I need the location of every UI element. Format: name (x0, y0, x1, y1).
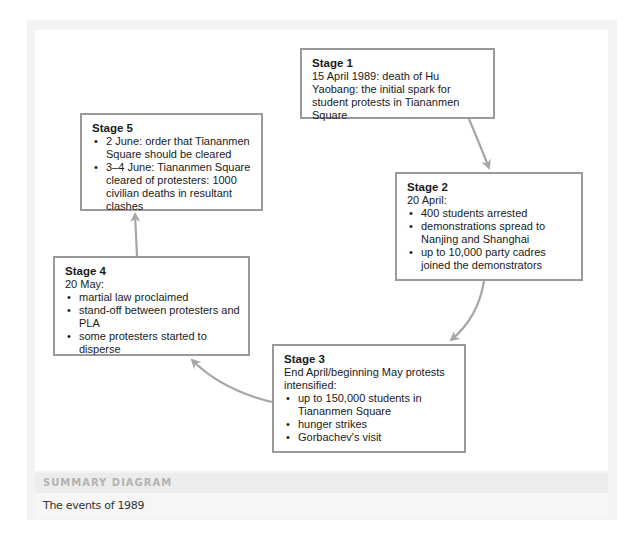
summary-diagram-header: SUMMARY DIAGRAM (35, 473, 608, 493)
stage-4-title: Stage 4 (65, 264, 240, 278)
stage-1-title: Stage 1 (312, 56, 485, 70)
stage-2-box: Stage 2 20 April: 400 students arrested … (395, 172, 583, 281)
bullet-item: martial law proclaimed (65, 291, 240, 304)
stage-5-title: Stage 5 (92, 121, 253, 135)
stage-5-box: Stage 5 2 June: order that Tiananmen Squ… (80, 113, 263, 211)
bullet-item: 3–4 June: Tiananmen Square cleared of pr… (92, 161, 253, 213)
stage-3-box: Stage 3 End April/beginning May protests… (272, 344, 466, 453)
bullet-item: up to 10,000 party cadres joined the dem… (407, 246, 573, 272)
bullet-item: up to 150,000 students in Tiananmen Squa… (284, 392, 456, 418)
stage-1-box: Stage 1 15 April 1989: death of Hu Yaoba… (300, 48, 495, 119)
bullet-item: some protesters started to disperse (65, 330, 240, 356)
stage-4-bullets: martial law proclaimed stand-off between… (65, 291, 240, 356)
stage-2-intro: 20 April: (407, 194, 573, 207)
bullet-item: 400 students arrested (407, 207, 573, 220)
stage-2-bullets: 400 students arrested demonstrations spr… (407, 207, 573, 272)
summary-diagram-caption: The events of 1989 (35, 493, 608, 518)
stage-3-title: Stage 3 (284, 352, 456, 366)
stage-4-box: Stage 4 20 May: martial law proclaimed s… (53, 256, 250, 356)
stage-1-text: 15 April 1989: death of Hu Yaobang: the … (312, 70, 485, 122)
stage-3-intro: End April/beginning May protests intensi… (284, 366, 456, 392)
bullet-item: Gorbachev's visit (284, 431, 456, 444)
stage-4-intro: 20 May: (65, 278, 240, 291)
bullet-item: hunger strikes (284, 418, 456, 431)
stage-3-bullets: up to 150,000 students in Tiananmen Squa… (284, 392, 456, 444)
stage-5-bullets: 2 June: order that Tiananmen Square shou… (92, 135, 253, 213)
bullet-item: stand-off between protesters and PLA (65, 304, 240, 330)
stage-2-title: Stage 2 (407, 180, 573, 194)
bullet-item: 2 June: order that Tiananmen Square shou… (92, 135, 253, 161)
bullet-item: demonstrations spread to Nanjing and Sha… (407, 220, 573, 246)
